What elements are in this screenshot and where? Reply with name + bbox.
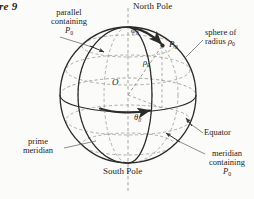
leader-parallel — [60, 37, 92, 47]
sphere-radius-line2: radius ρ0 — [205, 37, 253, 47]
sphere-radius-label: sphere of radius ρ0 — [205, 28, 253, 47]
prime-meridian-arc — [78, 27, 128, 163]
figure-container: re 9 parallel containing P0 North Pole S… — [0, 0, 254, 199]
rho-subscript-in-label: 0 — [232, 41, 235, 47]
rho-radius-label: ρ0 — [143, 58, 150, 68]
origin-to-foot-line — [128, 95, 162, 108]
point-p0-marker — [160, 43, 164, 47]
theta-angle-label: θ0 — [134, 113, 141, 123]
equator-front-arc — [60, 95, 196, 112]
parallel-containing-p0-label: parallel containing P0 — [38, 8, 100, 36]
leader-sphere-of — [186, 40, 203, 57]
origin-label: O — [112, 78, 119, 87]
north-pole-label: North Pole — [133, 2, 172, 11]
parallel-label-line3: P0 — [38, 26, 100, 36]
leader-prime-meridian — [64, 141, 96, 148]
theta-subscript: 0 — [138, 117, 141, 123]
meridian-containing-p0-arc — [128, 27, 152, 163]
rho-subscript: 0 — [147, 62, 150, 68]
leader-parallel-arrow — [90, 46, 104, 52]
meridian-p-subscript: 0 — [228, 170, 231, 176]
leader-meridian-p0-arrow — [166, 133, 180, 142]
prime-meridian-line2: meridian — [12, 146, 64, 155]
meridian-containing-p0-label: meridian containing P0 — [200, 149, 254, 177]
equator-label: Equator — [204, 128, 231, 137]
parallel-p-subscript: 0 — [70, 29, 73, 35]
point-p0-label: P0 — [169, 40, 178, 50]
theta-angle-arc — [100, 109, 150, 113]
meridian-label-line3: P0 — [200, 167, 254, 177]
south-pole-label: South Pole — [103, 167, 142, 176]
figure-number: re 9 — [0, 1, 18, 13]
rho-radius-line — [128, 46, 162, 95]
phi-subscript: 0 — [136, 30, 139, 36]
p0-subscript: 0 — [175, 44, 178, 50]
phi-angle-label: φ0 — [131, 26, 139, 36]
prime-meridian-label: prime meridian — [12, 137, 64, 155]
sphere-radius-prefix: radius — [205, 36, 228, 46]
